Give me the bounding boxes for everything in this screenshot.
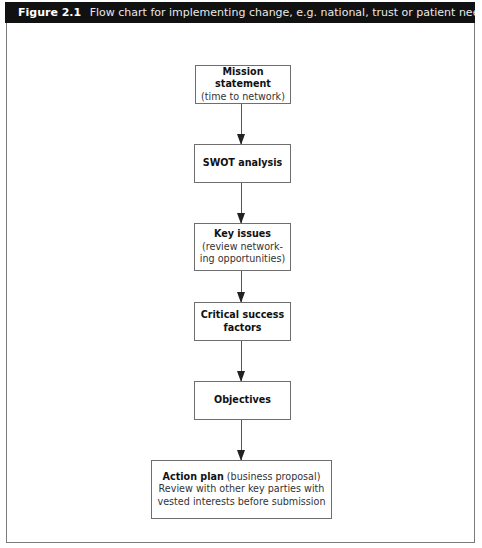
node-critical-success-factors: Critical success factors bbox=[194, 302, 291, 341]
node-line1: Action plan (business proposal) bbox=[163, 471, 321, 484]
node-title: SWOT analysis bbox=[203, 157, 283, 170]
node-objectives: Objectives bbox=[194, 381, 291, 420]
arrow-swot-to-key-issues bbox=[241, 183, 242, 223]
node-subtitle-line2: ing opportunities) bbox=[200, 253, 285, 266]
figure-caption-bar: Figure 2.1 Flow chart for implementing c… bbox=[5, 2, 475, 23]
node-title: Key issues bbox=[214, 228, 271, 241]
node-swot-analysis: SWOT analysis bbox=[194, 144, 291, 183]
node-key-issues: Key issues (review network- ing opportun… bbox=[194, 223, 291, 271]
node-line2: Review with other key parties with bbox=[159, 483, 325, 496]
node-subtitle-line1: (review network- bbox=[202, 241, 283, 254]
arrow-csf-to-objectives bbox=[241, 341, 242, 381]
node-title: Action plan bbox=[163, 471, 224, 482]
arrow-key-issues-to-csf bbox=[241, 271, 242, 302]
arrow-mission-to-swot bbox=[241, 104, 242, 144]
node-title: Mission statement bbox=[199, 66, 287, 91]
figure-caption: Flow chart for implementing change, e.g.… bbox=[90, 6, 475, 19]
node-mission-statement: Mission statement (time to network) bbox=[195, 65, 291, 104]
node-line3: vested interests before submission bbox=[158, 496, 326, 509]
arrow-objectives-to-action-plan bbox=[241, 420, 242, 460]
node-title: Objectives bbox=[214, 394, 271, 407]
node-title-suffix: (business proposal) bbox=[224, 471, 321, 482]
node-title-line1: Critical success bbox=[201, 309, 285, 322]
figure-label: Figure 2.1 bbox=[18, 6, 81, 19]
node-subtitle: (time to network) bbox=[201, 91, 285, 104]
node-title-line2: factors bbox=[224, 322, 262, 335]
node-action-plan: Action plan (business proposal) Review w… bbox=[151, 460, 332, 519]
